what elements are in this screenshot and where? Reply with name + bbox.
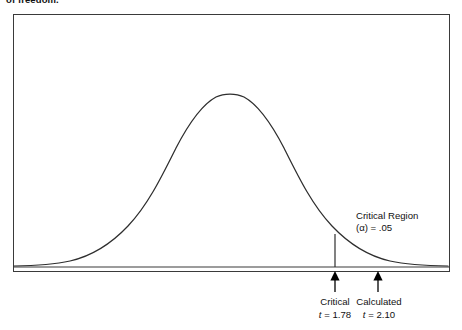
critical-region-annotation: Critical Region (α) = .05 — [356, 210, 418, 235]
equals-critical: = — [322, 309, 333, 320]
value-calculated: 2.10 — [376, 309, 395, 320]
critical-region-title: Critical Region — [356, 210, 418, 222]
marker-label-calculated-name: Calculated — [345, 296, 413, 309]
distribution-figure — [0, 0, 462, 330]
t-distribution-curve — [14, 94, 448, 266]
marker-label-calculated: Calculated t = 2.10 — [345, 296, 413, 321]
equals-calculated: = — [366, 309, 377, 320]
arrow-critical — [330, 271, 339, 292]
marker-label-calculated-value: t = 2.10 — [345, 309, 413, 322]
critical-region-alpha: (α) = .05 — [356, 222, 418, 234]
arrow-calculated — [373, 271, 382, 292]
figure-stage: of freedom. Critical Region (α) = .05 Cr… — [0, 0, 462, 330]
